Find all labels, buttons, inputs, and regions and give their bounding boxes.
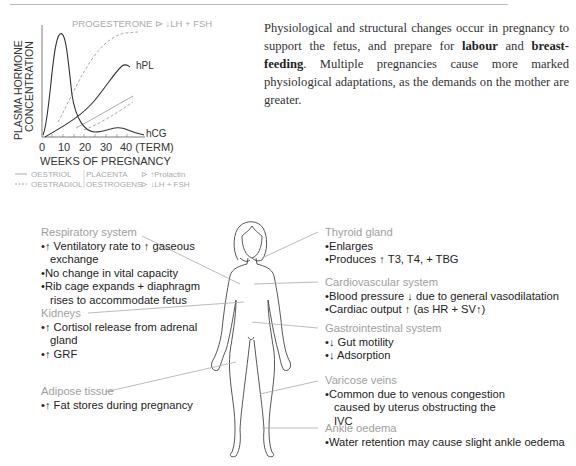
label-title: Adipose tissue — [41, 385, 216, 399]
label-thyroid-gland: Thyroid gland Enlarges Produces ↑ T3, T4… — [325, 226, 575, 267]
label-title: Thyroid gland — [325, 226, 575, 240]
label-item: No change in vital capacity — [41, 267, 216, 281]
label-item: ↑ Fat stores during pregnancy — [41, 399, 216, 413]
label-title: Cardiovascular system — [325, 276, 575, 290]
label-respiratory-system: Respiratory system ↑ Ventilatory rate to… — [41, 226, 216, 308]
label-adipose-tissue: Adipose tissue ↑ Fat stores during pregn… — [41, 385, 216, 412]
label-title: Respiratory system — [41, 226, 216, 240]
leader-cardio — [254, 282, 318, 284]
leader-thyroid — [262, 232, 318, 258]
label-ankle-oedema: Ankle oedema Water retention may cause s… — [325, 422, 575, 449]
label-title: Kidneys — [41, 307, 216, 321]
label-kidneys: Kidneys ↑ Cortisol release from adrenal … — [41, 307, 216, 361]
label-item: ↓ Adsorption — [325, 349, 575, 363]
label-title: Varicose veins — [325, 374, 515, 388]
label-item: ↓ Gut motility — [325, 336, 575, 350]
label-item: Produces ↑ T3, T4, + TBG — [325, 253, 575, 267]
label-item: ↑ Ventilatory rate to ↑ gaseous exchange — [41, 240, 216, 267]
label-cardiovascular-system: Cardiovascular system Blood pressure ↓ d… — [325, 276, 575, 317]
female-body-outline — [211, 222, 290, 457]
label-item: Cardiac output ↑ (as HR + SV↑) — [325, 303, 575, 317]
label-varicose-veins: Varicose veins Common due to venous cong… — [325, 374, 515, 428]
leader-varicose — [260, 381, 318, 394]
label-item: ↑ GRF — [41, 348, 216, 362]
label-title: Ankle oedema — [325, 422, 575, 436]
label-gastrointestinal-system: Gastrointestinal system ↓ Gut motility ↓… — [325, 322, 575, 363]
label-item: Rib cage expands + diaphragm rises to ac… — [41, 280, 216, 307]
leader-gi — [252, 322, 318, 328]
label-title: Gastrointestinal system — [325, 322, 575, 336]
label-item: ↑ Cortisol release from adrenal gland — [41, 321, 216, 348]
label-item: Enlarges — [325, 240, 575, 254]
label-item: Blood pressure ↓ due to general vasodila… — [325, 290, 575, 304]
label-item: Water retention may cause slight ankle o… — [325, 436, 575, 450]
